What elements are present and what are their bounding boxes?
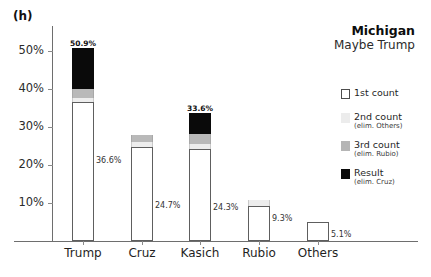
legend-swatch-icon bbox=[341, 113, 350, 123]
y-axis-tick-label: 50% bbox=[0, 43, 44, 57]
legend-swatch-icon bbox=[341, 141, 350, 151]
legend-item-2nd-count[interactable]: 2nd count(elim. Others) bbox=[341, 112, 427, 131]
panel-label: (h) bbox=[13, 9, 33, 23]
bar-value-label: 24.3% bbox=[213, 203, 238, 212]
bar-value-label: 9.3% bbox=[272, 214, 292, 223]
x-axis-line bbox=[14, 241, 418, 242]
legend-swatch-icon bbox=[341, 169, 350, 179]
x-axis-tick bbox=[259, 241, 260, 245]
x-axis-tick bbox=[318, 241, 319, 245]
y-axis-line bbox=[52, 26, 53, 242]
bar-top-label: 50.9% bbox=[64, 39, 102, 48]
x-axis-tick bbox=[200, 241, 201, 245]
legend-item-result[interactable]: Result(elim. Cruz) bbox=[341, 168, 427, 187]
segment-3rd-count bbox=[72, 89, 94, 97]
y-axis-tick-label: 20% bbox=[0, 157, 44, 171]
segment-3rd-count bbox=[189, 134, 211, 144]
segment-result bbox=[72, 48, 94, 90]
bar-trump[interactable] bbox=[72, 48, 94, 241]
y-axis-tick bbox=[48, 203, 53, 204]
legend-label: 1st count bbox=[354, 88, 427, 98]
legend-sublabel: (elim. Rubio) bbox=[354, 150, 427, 159]
y-axis-tick-label: 40% bbox=[0, 81, 44, 95]
legend-label: 3rd count bbox=[354, 140, 427, 150]
x-axis-tick bbox=[83, 241, 84, 245]
segment-1st-count bbox=[131, 147, 153, 241]
y-axis-tick-label: 30% bbox=[0, 119, 44, 133]
x-axis-tick bbox=[142, 241, 143, 245]
segment-1st-count bbox=[72, 102, 94, 241]
segment-1st-count bbox=[189, 149, 211, 241]
bar-top-label: 33.6% bbox=[181, 104, 219, 113]
segment-1st-count bbox=[248, 206, 270, 241]
y-axis-tick-label: 10% bbox=[0, 195, 44, 209]
legend: 1st count2nd count(elim. Others)3rd coun… bbox=[341, 88, 427, 196]
bar-value-label: 24.7% bbox=[155, 201, 180, 210]
y-axis-tick bbox=[48, 127, 53, 128]
legend-swatch-icon bbox=[341, 89, 350, 99]
x-axis-label-others: Others bbox=[283, 246, 353, 260]
legend-sublabel: (elim. Others) bbox=[354, 122, 427, 131]
bar-cruz[interactable] bbox=[131, 135, 153, 241]
segment-1st-count bbox=[307, 222, 329, 241]
bar-value-label: 36.6% bbox=[96, 156, 121, 165]
chart-container: (h) Michigan Maybe Trump 10%20%30%40%50%… bbox=[0, 0, 431, 277]
y-axis-tick bbox=[48, 51, 53, 52]
chart-title: Michigan bbox=[351, 23, 415, 38]
bar-kasich[interactable] bbox=[189, 113, 211, 241]
legend-label: 2nd count bbox=[354, 112, 427, 122]
chart-subtitle: Maybe Trump bbox=[334, 38, 415, 52]
legend-item-3rd-count[interactable]: 3rd count(elim. Rubio) bbox=[341, 140, 427, 159]
y-axis-tick bbox=[48, 89, 53, 90]
y-axis-tick bbox=[48, 165, 53, 166]
legend-item-1st-count[interactable]: 1st count bbox=[341, 88, 427, 103]
bar-value-label: 5.1% bbox=[331, 230, 351, 239]
bar-others[interactable] bbox=[307, 222, 329, 241]
legend-sublabel: (elim. Cruz) bbox=[354, 178, 427, 187]
segment-result bbox=[189, 113, 211, 134]
bar-rubio[interactable] bbox=[248, 200, 270, 241]
legend-label: Result bbox=[354, 168, 427, 178]
